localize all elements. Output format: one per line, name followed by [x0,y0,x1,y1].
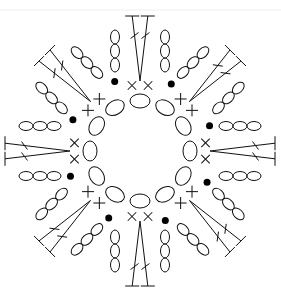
single-crochet-icon [93,197,105,209]
chain-stitch-icon [86,114,108,138]
chain-stitch-icon [103,183,127,205]
single-crochet-icon [66,151,83,168]
chain-stitch-icon [47,122,61,131]
chain-stitch-icon [19,122,33,131]
petal-top-left [34,45,106,124]
chain-stitch-icon [33,122,47,131]
slip-stitch-icon [69,116,76,123]
chain-stitch-icon [219,122,233,131]
chain-stitch-icon [111,44,120,58]
single-crochet-icon [140,208,157,225]
chain-stitch-icon [247,172,261,181]
single-crochet-icon [197,151,214,168]
single-crochet-icon [82,104,94,116]
single-crochet-icon [66,134,83,151]
chain-stitch-icon [247,122,261,131]
double-crochet-icon [5,136,70,151]
slip-stitch-icon [111,78,118,85]
chain-stitch-icon [111,58,120,72]
single-crochet-icon [93,93,105,105]
petal-bottom [111,208,170,286]
chain-stitch-icon [130,94,150,108]
chain-stitch-icon [111,258,120,272]
slip-stitch-icon [162,217,169,224]
slip-stitch-icon [204,179,211,186]
petals [5,16,275,286]
double-crochet-icon [5,151,70,166]
chain-stitch-icon [130,194,150,208]
chain-stitch-icon [172,164,194,188]
chain-stitch-icon [47,172,61,181]
chain-stitch-icon [33,172,47,181]
single-crochet-icon [123,208,140,225]
chain-stitch-icon [111,230,120,244]
chain-stitch-icon [183,141,197,161]
chain-stitch-icon [111,30,120,44]
chain-stitch-icon [153,97,177,119]
chain-stitch-icon [161,244,170,258]
chain-stitch-icon [233,122,247,131]
slip-stitch-icon [168,80,175,87]
double-crochet-icon [210,136,275,151]
chain-stitch-icon [19,172,33,181]
chain-stitch-icon [161,44,170,58]
single-crochet-icon [186,104,198,116]
chain-stitch-icon [233,172,247,181]
double-crochet-icon [140,16,155,81]
petal-right [197,122,275,181]
double-crochet-icon [140,221,155,286]
single-crochet-icon [175,197,187,209]
chain-stitch-icon [111,244,120,258]
center-chain-ring [83,94,197,208]
double-crochet-icon [125,16,140,81]
petal-top-right [168,45,247,117]
chain-stitch-icon [161,230,170,244]
single-crochet-icon [175,93,187,105]
slip-stitch-icon [206,122,213,129]
single-crochet-icon [140,77,157,94]
chain-stitch-icon [161,58,170,72]
single-crochet-icon [186,186,198,198]
petal-bottom-left [34,186,113,258]
double-crochet-icon [210,151,275,166]
chain-stitch-icon [161,258,170,272]
slip-stitch-icon [67,173,74,180]
petal-left [5,122,83,181]
petal-top [111,16,170,94]
crochet-diagram [0,0,281,302]
chain-stitch-icon [103,97,127,119]
petal-bottom-right [175,179,247,258]
chain-stitch-icon [172,114,194,138]
slip-stitch-icon [105,215,112,222]
single-crochet-icon [197,134,214,151]
single-crochet-icon [123,77,140,94]
chain-stitch-icon [86,164,108,188]
chain-stitch-icon [219,172,233,181]
single-crochet-icon [82,186,94,198]
double-crochet-icon [125,221,140,286]
chain-stitch-icon [83,141,97,161]
chain-stitch-icon [161,30,170,44]
chain-stitch-icon [153,183,177,205]
